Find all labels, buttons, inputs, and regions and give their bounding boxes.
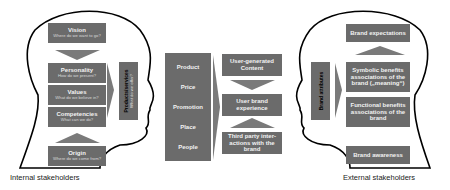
arrow-down-ugc <box>230 80 275 90</box>
vision-subtitle: Where do we want to go? <box>53 34 101 39</box>
personality-subtitle: How do we present? <box>58 74 96 79</box>
brand-awareness-label: Brand awareness <box>353 152 403 159</box>
mix-item-promotion: Promotion <box>173 104 203 110</box>
vision-box: Vision Where do we want to go? <box>48 23 106 43</box>
values-subtitle: What do we believe in? <box>55 96 98 101</box>
personality-box: Personality How do we present? <box>48 63 106 83</box>
products-services-box: Products/services What do we offer? <box>119 62 138 120</box>
internal-stakeholders-caption: Internal stakeholders <box>10 173 80 182</box>
arrow-right-attributes <box>335 63 342 118</box>
products-services-title: Products/services <box>123 69 129 112</box>
third-party-label: Third party inter-actions with the brand <box>225 133 279 154</box>
brand-expectations-label: Brand expectations <box>350 30 406 37</box>
user-brand-experience-box: User brand experience <box>222 94 282 116</box>
arrow-right-mix <box>213 55 220 160</box>
origin-subtitle: Where do we come from? <box>53 157 101 162</box>
functional-benefits-label: Functional benefits associations of the … <box>349 102 407 123</box>
mix-item-product: Product <box>177 64 200 70</box>
origin-box: Origin Where do we come from? <box>48 146 106 166</box>
arrow-down-vision <box>55 50 100 60</box>
competencies-subtitle: What can we do? <box>61 118 93 123</box>
arrow-right-core <box>107 63 114 118</box>
mix-item-people: People <box>178 144 198 150</box>
mix-item-price: Price <box>181 84 196 90</box>
brand-attributes-label: Brand attributes <box>318 72 324 111</box>
arrow-up-expectations <box>355 46 405 55</box>
user-brand-experience-label: User brand experience <box>225 98 279 112</box>
symbolic-benefits-label: Symbolic benefits associations of the br… <box>349 67 407 88</box>
arrow-up-origin <box>55 133 100 143</box>
values-box: Values What do we believe in? <box>48 85 106 105</box>
mix-item-place: Place <box>180 124 196 130</box>
competencies-box: Competencies What can we do? <box>48 107 106 127</box>
ugc-label: User-generated Content <box>225 58 279 72</box>
arrow-up-third <box>230 118 275 128</box>
brand-attributes-box: Brand attributes <box>311 62 330 120</box>
marketing-mix-box: Product Price Promotion Place People <box>165 53 211 161</box>
brand-expectations-box: Brand expectations <box>346 24 410 42</box>
ugc-box: User-generated Content <box>222 54 282 76</box>
products-services-subtitle: What do we offer? <box>129 69 134 112</box>
symbolic-benefits-box: Symbolic benefits associations of the br… <box>346 62 410 92</box>
functional-benefits-box: Functional benefits associations of the … <box>346 97 410 127</box>
third-party-box: Third party inter-actions with the brand <box>222 132 282 154</box>
brand-awareness-box: Brand awareness <box>346 146 410 164</box>
external-stakeholders-caption: External stakeholders <box>343 173 415 182</box>
